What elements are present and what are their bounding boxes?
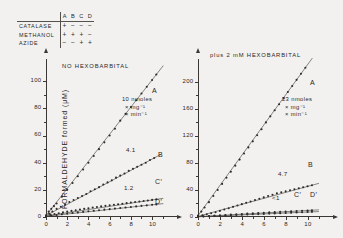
data-point-D' bbox=[50, 215, 52, 217]
data-point-A bbox=[77, 175, 79, 177]
x-axis-arrow bbox=[333, 215, 338, 219]
data-point-B bbox=[228, 207, 230, 209]
curve-label-c-left: C′ bbox=[155, 178, 162, 185]
data-point-A bbox=[146, 86, 148, 88]
data-point-C' bbox=[79, 208, 81, 210]
y-tick-minor bbox=[196, 122, 198, 123]
curve-label-d-right: D′ bbox=[310, 191, 317, 198]
data-point-C' bbox=[147, 199, 149, 201]
data-point-A bbox=[274, 109, 276, 111]
data-point-A bbox=[212, 195, 214, 197]
data-point-C' bbox=[113, 204, 115, 206]
data-point-D' bbox=[279, 212, 281, 214]
data-point-C' bbox=[53, 213, 55, 215]
x-tick-label: 8 bbox=[284, 221, 288, 227]
x-tick-label: 10 bbox=[304, 221, 311, 227]
slope-label-c-right: <1 bbox=[272, 194, 280, 201]
data-point-A bbox=[239, 159, 241, 161]
y-tick-label: 40 bbox=[186, 186, 193, 192]
rate-unit2-left: × mg⁻¹ bbox=[122, 104, 152, 112]
data-point-D' bbox=[93, 210, 95, 212]
data-point-C' bbox=[83, 208, 85, 210]
data-point-B bbox=[236, 204, 238, 206]
catalase-d-value: − bbox=[86, 22, 95, 31]
data-point-B bbox=[115, 177, 117, 179]
panel-title-right: plus 2 mM HEXOBARBITAL bbox=[210, 52, 301, 58]
data-point-A bbox=[53, 205, 55, 207]
x-tick-label: 10 bbox=[149, 221, 156, 227]
data-point-D' bbox=[151, 204, 153, 206]
data-point-A bbox=[66, 189, 68, 191]
x-tick: 6 bbox=[110, 217, 111, 220]
data-point-A bbox=[260, 128, 262, 130]
data-point-A bbox=[56, 202, 58, 204]
data-point-C' bbox=[62, 211, 64, 213]
data-point-C' bbox=[58, 212, 60, 214]
data-point-A bbox=[109, 135, 111, 137]
y-tick-minor bbox=[196, 176, 198, 177]
data-point-C' bbox=[117, 203, 119, 205]
data-point-D' bbox=[263, 213, 265, 215]
data-point-D' bbox=[307, 211, 309, 213]
x-tick: 0 bbox=[198, 217, 199, 220]
data-point-B bbox=[102, 183, 104, 185]
data-point-C' bbox=[66, 211, 68, 213]
data-point-B bbox=[85, 193, 87, 195]
data-point-D' bbox=[56, 214, 58, 216]
curve-label-c-right: C′ bbox=[294, 191, 301, 198]
rate-annotation-left: 10 nmoles × mg⁻¹ × min⁻¹ bbox=[122, 96, 152, 119]
y-tick-minor bbox=[44, 203, 46, 204]
data-point-B bbox=[119, 175, 121, 177]
data-point-C' bbox=[143, 200, 145, 202]
x-tick-minor bbox=[209, 217, 210, 219]
data-point-A bbox=[252, 140, 254, 142]
y-tick-label: 160 bbox=[183, 105, 194, 111]
data-point-B bbox=[153, 157, 155, 159]
rate-unit-left: nmoles bbox=[131, 96, 152, 102]
column-header-b: B bbox=[69, 12, 77, 22]
y-tick: 40 bbox=[195, 190, 198, 191]
data-point-D' bbox=[252, 213, 254, 215]
y-tick: 40 bbox=[43, 163, 46, 164]
y-tick-label: 120 bbox=[183, 132, 194, 138]
panel-no-hexobarbital: FORMALDEHYDE formed (μM) NO HEXOBARBITAL… bbox=[0, 60, 176, 238]
slope-label-b-left: 4.1 bbox=[126, 146, 136, 153]
data-point-B bbox=[245, 202, 247, 204]
data-point-D' bbox=[125, 206, 127, 208]
data-point-A bbox=[114, 128, 116, 130]
data-point-B bbox=[64, 204, 66, 206]
curve-label-a-right: A bbox=[310, 79, 315, 86]
data-point-A bbox=[140, 92, 142, 94]
rate-value-right: 23 bbox=[282, 96, 289, 102]
conditions-table: A B C D CATALASE + − − − METHANOL + + + … bbox=[17, 12, 94, 48]
data-point-D' bbox=[98, 209, 100, 211]
data-point-D' bbox=[230, 214, 232, 216]
x-tick-minor bbox=[141, 217, 142, 219]
data-point-B bbox=[145, 162, 147, 164]
data-point-B bbox=[132, 168, 134, 170]
data-point-D' bbox=[71, 212, 73, 214]
x-tick: 8 bbox=[286, 217, 287, 220]
y-tick: 120 bbox=[195, 136, 198, 137]
data-point-A bbox=[71, 182, 73, 184]
data-point-D' bbox=[311, 211, 313, 213]
x-tick: 0 bbox=[46, 217, 47, 220]
x-tick-label: 2 bbox=[66, 221, 70, 227]
data-point-B bbox=[149, 159, 151, 161]
plot-area-left: 0204060801000246810 bbox=[46, 65, 168, 217]
data-point-B bbox=[206, 213, 208, 215]
azide-c-value: + bbox=[77, 39, 86, 48]
data-point-D' bbox=[202, 215, 204, 217]
panel-plus-hexobarbital: plus 2 mM HEXOBARBITAL 04080120160200024… bbox=[172, 60, 343, 238]
plot-area-right: 040801201602000246810 bbox=[198, 65, 324, 217]
data-point-A bbox=[221, 183, 223, 185]
y-tick-label: 60 bbox=[34, 131, 41, 137]
data-point-D' bbox=[146, 204, 148, 206]
methanol-d-value: − bbox=[86, 31, 95, 40]
y-tick-label: 0 bbox=[190, 213, 194, 219]
y-tick-label: 200 bbox=[183, 78, 194, 84]
y-tick: 160 bbox=[195, 109, 198, 110]
catalase-c-value: − bbox=[77, 22, 86, 31]
x-tick: 2 bbox=[67, 217, 68, 220]
data-point-B bbox=[232, 206, 234, 208]
